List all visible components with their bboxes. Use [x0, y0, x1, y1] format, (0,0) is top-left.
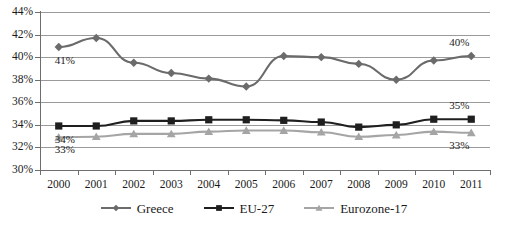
data-point-marker — [280, 52, 288, 60]
data-point-marker — [55, 122, 62, 129]
series-line — [59, 119, 472, 127]
data-point-marker — [355, 60, 363, 68]
legend-label: EU-27 — [240, 202, 275, 215]
data-point-marker — [392, 76, 400, 84]
data-point-marker — [430, 116, 437, 123]
series-line — [59, 38, 472, 87]
data-point-marker — [468, 116, 475, 123]
value-annotation: 33% — [449, 140, 469, 151]
series-layer — [0, 0, 508, 231]
legend-item-eu-27[interactable]: EU-27 — [204, 202, 275, 215]
data-point-marker — [205, 116, 212, 123]
chart-legend: GreeceEU-27Eurozone-17 — [0, 198, 508, 218]
data-point-marker — [167, 69, 175, 77]
diamond-marker-icon — [101, 202, 131, 214]
legend-item-greece[interactable]: Greece — [101, 202, 174, 215]
data-point-marker — [280, 117, 287, 124]
triangle-marker-icon — [304, 202, 334, 214]
data-point-marker — [168, 117, 175, 124]
data-point-marker — [242, 82, 250, 90]
data-point-marker — [318, 118, 325, 125]
data-point-marker — [430, 56, 438, 64]
data-point-marker — [317, 53, 325, 61]
data-point-marker — [467, 52, 475, 60]
series-eu-27 — [55, 116, 475, 131]
data-point-marker — [92, 34, 100, 42]
data-point-marker — [112, 205, 119, 212]
data-point-marker — [243, 116, 250, 123]
data-point-marker — [393, 121, 400, 128]
value-annotation: 40% — [449, 37, 469, 48]
data-point-marker — [130, 117, 137, 124]
value-annotation: 33% — [55, 144, 75, 155]
value-annotation: 35% — [449, 100, 469, 111]
data-point-marker — [355, 124, 362, 131]
series-line — [59, 131, 472, 138]
data-point-marker — [130, 59, 138, 67]
data-point-marker — [55, 43, 63, 51]
legend-item-eurozone-17[interactable]: Eurozone-17 — [304, 202, 407, 215]
data-point-marker — [316, 205, 323, 211]
value-annotation: 41% — [55, 55, 75, 66]
series-greece — [55, 34, 476, 91]
square-marker-icon — [204, 202, 234, 214]
data-point-marker — [216, 205, 222, 211]
data-point-marker — [93, 122, 100, 129]
legend-label: Eurozone-17 — [340, 202, 407, 215]
cropped-caption — [0, 221, 508, 231]
legend-label: Greece — [137, 202, 174, 215]
data-point-marker — [205, 74, 213, 82]
line-chart: 30%32%34%36%38%40%42%44% 200020012002200… — [0, 0, 508, 231]
series-eurozone-17 — [54, 126, 475, 140]
